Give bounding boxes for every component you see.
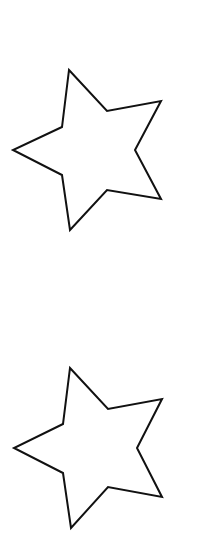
star-icon (13, 70, 161, 230)
drawing-canvas (0, 0, 216, 544)
star-icon (14, 368, 162, 528)
